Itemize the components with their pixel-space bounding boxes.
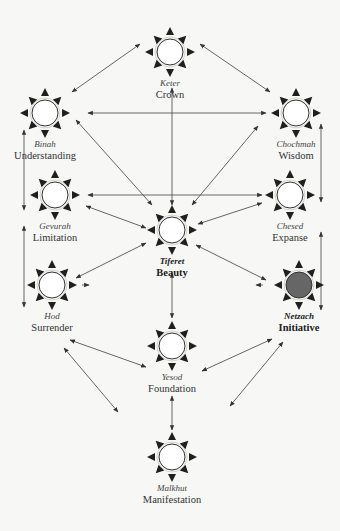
label-tiferet: TiferetBeauty <box>156 257 188 278</box>
path-arrow <box>192 126 258 205</box>
path-arrow <box>86 206 146 228</box>
label-yesod: YesodFoundation <box>148 373 196 394</box>
hebrew-name: Gevurah <box>33 222 77 232</box>
sefirah-node-keter <box>137 19 202 84</box>
path-arrow <box>76 243 146 278</box>
sefirah-node-netzach <box>266 252 331 317</box>
hebrew-name: Netzach <box>279 312 320 322</box>
english-name: Beauty <box>156 267 188 279</box>
hebrew-name: Chesed <box>272 222 308 232</box>
english-name: Wisdom <box>277 150 316 162</box>
label-gevurah: GevurahLimitation <box>33 222 77 243</box>
path-arrow <box>196 245 266 280</box>
label-keter: KeterCrown <box>156 79 185 100</box>
english-name: Initiative <box>279 322 320 334</box>
hebrew-name: Chochmah <box>277 140 316 150</box>
empty-circle-icon <box>32 100 58 126</box>
path-arrow <box>200 44 270 92</box>
empty-circle-icon <box>159 217 185 243</box>
sefirah-node-yesod <box>139 313 204 378</box>
empty-circle-icon <box>277 182 303 208</box>
english-name: Limitation <box>33 232 77 244</box>
sefirah-node-chesed <box>257 162 322 227</box>
hebrew-name: Hod <box>31 312 72 322</box>
sefirah-node-hod <box>19 252 84 317</box>
sefirah-node-binah <box>12 80 77 145</box>
path-arrow <box>70 340 146 367</box>
label-binah: BinahUnderstanding <box>14 140 76 161</box>
path-arrow <box>72 44 140 92</box>
english-name: Expanse <box>272 232 308 244</box>
label-chesed: ChesedExpanse <box>272 222 308 243</box>
label-hod: HodSurrender <box>31 312 72 333</box>
hebrew-name: Keter <box>156 79 185 89</box>
english-name: Surrender <box>31 322 72 334</box>
hebrew-name: Binah <box>14 140 76 150</box>
english-name: Foundation <box>148 383 196 395</box>
hebrew-name: Tiferet <box>156 257 188 267</box>
empty-circle-icon <box>42 182 68 208</box>
path-arrow <box>202 339 272 371</box>
path-arrow <box>76 120 152 205</box>
hebrew-name: Malkhut <box>143 484 201 494</box>
filled-circle-icon <box>286 272 312 298</box>
label-chochmah: ChochmahWisdom <box>277 140 316 161</box>
hebrew-name: Yesod <box>148 373 196 383</box>
path-arrow <box>230 342 283 406</box>
english-name: Understanding <box>14 150 76 162</box>
english-name: Crown <box>156 89 185 101</box>
path-arrow <box>198 203 262 224</box>
empty-circle-icon <box>159 444 185 470</box>
sefirah-node-malkhut <box>139 424 204 489</box>
empty-circle-icon <box>159 333 185 359</box>
path-arrow <box>64 348 118 412</box>
english-name: Manifestation <box>143 494 201 506</box>
tree-of-life-diagram: KeterCrownBinahUnderstandingChochmahWisd… <box>0 0 340 531</box>
sefirah-node-chochmah <box>263 80 328 145</box>
sefirah-node-tiferet <box>139 197 204 262</box>
empty-circle-icon <box>283 100 309 126</box>
label-netzach: NetzachInitiative <box>279 312 320 333</box>
empty-circle-icon <box>157 39 183 65</box>
empty-circle-icon <box>39 272 65 298</box>
sefirah-node-gevurah <box>22 162 87 227</box>
label-malkhut: MalkhutManifestation <box>143 484 201 505</box>
